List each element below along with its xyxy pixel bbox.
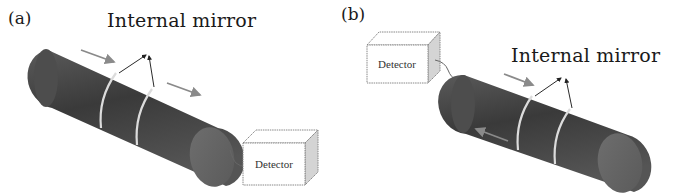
mirror-pointer-b2: [566, 79, 572, 108]
detector-label-a: Detector: [255, 158, 293, 170]
optical-fiber-a: [27, 49, 244, 190]
detector-box-b: Detector: [367, 32, 440, 83]
propagation-arrow-b1: [504, 74, 533, 85]
figure-canvas: Detector Detector: [0, 0, 689, 196]
optical-fiber-b: [438, 75, 651, 196]
panel-label-b: (b): [341, 4, 365, 24]
propagation-arrow-a1: [81, 50, 114, 62]
mirror-label-a: Internal mirror: [107, 9, 256, 31]
panel-a: Detector: [27, 49, 318, 190]
mirror-pointer-a2: [149, 56, 154, 87]
detector-box-a: Detector: [243, 130, 318, 185]
panel-label-a: (a): [8, 8, 31, 28]
mirror-pointer-b1: [535, 78, 561, 96]
detector-label-b: Detector: [378, 58, 416, 70]
propagation-arrow-a2: [167, 83, 200, 95]
mirror-label-b: Internal mirror: [511, 44, 660, 66]
mirror-pointer-a1: [119, 55, 146, 73]
